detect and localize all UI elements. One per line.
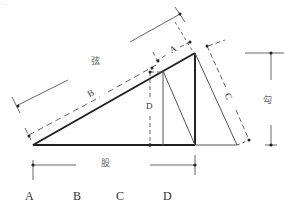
main-triangle bbox=[33, 53, 195, 145]
hypotenuse-label: 弦 bbox=[91, 57, 100, 66]
b-dimension bbox=[25, 65, 156, 140]
bottom-label-c: C bbox=[116, 190, 124, 202]
construction-lines bbox=[163, 53, 250, 145]
bottom-label-d: D bbox=[163, 190, 172, 202]
short-leg-label: 勾 bbox=[263, 96, 272, 105]
long-leg-dimension bbox=[33, 155, 195, 180]
corner-mark: ... bbox=[2, 0, 8, 6]
bottom-label-b: B bbox=[73, 190, 81, 202]
hypotenuse-dimension bbox=[12, 7, 192, 113]
long-leg-label: 股 bbox=[101, 159, 110, 168]
segment-d-label: D bbox=[146, 102, 153, 111]
bottom-label-a: A bbox=[25, 190, 34, 202]
gougu-diagram bbox=[0, 0, 284, 202]
